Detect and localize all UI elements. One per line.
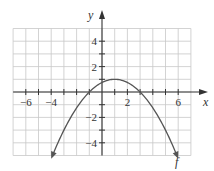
function-label: f <box>175 155 180 169</box>
x-tick-label: 6 <box>175 96 181 108</box>
y-tick-label: −4 <box>85 137 97 149</box>
x-axis-label: x <box>202 95 209 109</box>
x-tick-label: 2 <box>125 96 131 108</box>
x-tick-label: −4 <box>45 96 57 108</box>
x-tick-label: −6 <box>20 96 32 108</box>
y-tick-label: −2 <box>85 111 97 123</box>
y-tick-label: 2 <box>92 61 98 73</box>
graph: −6−42642−2−4 x y f <box>0 0 214 171</box>
y-axis-label: y <box>87 8 94 22</box>
y-tick-label: 4 <box>92 35 98 47</box>
axes <box>13 10 208 156</box>
